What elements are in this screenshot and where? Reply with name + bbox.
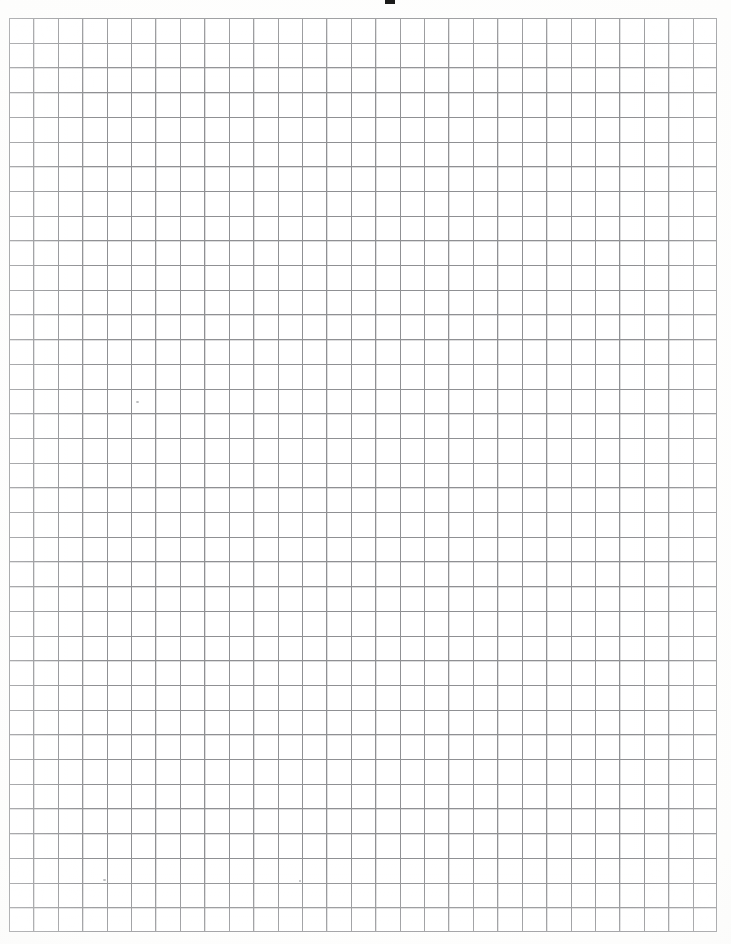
graph-paper-grid xyxy=(9,18,717,932)
pencil-speck xyxy=(103,879,106,881)
page-title: Graph Paper Sheet xyxy=(0,0,1,1)
pencil-speck xyxy=(299,880,301,882)
graph-paper-page: Graph Paper Sheet Blank scanned sheet of… xyxy=(0,0,731,944)
cropped-ink-mark-icon xyxy=(385,0,395,4)
page-description: Blank scanned sheet of square-ruled grap… xyxy=(0,0,1,1)
pencil-speck xyxy=(136,401,139,403)
grid-note: Empty grid paper: no plotted data, no ax… xyxy=(0,0,1,1)
